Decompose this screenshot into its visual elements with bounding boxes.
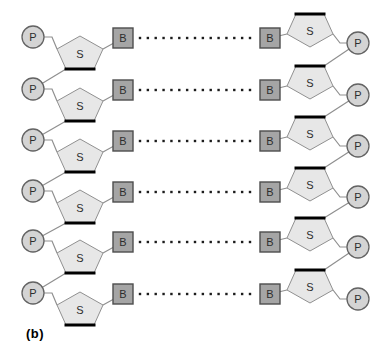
hydrogen-bond-dot	[147, 140, 149, 142]
hydrogen-bond-dot	[147, 241, 149, 243]
sugar-label: S	[306, 229, 313, 241]
hydrogen-bond-dot	[186, 241, 188, 243]
hydrogen-bond-dot	[225, 89, 227, 91]
hydrogen-bond-dot	[241, 140, 243, 142]
phosphate-label: P	[29, 185, 36, 197]
hydrogen-bond-dot	[210, 241, 212, 243]
hydrogen-bond-dot	[210, 191, 212, 193]
hydrogen-bond-dot	[186, 89, 188, 91]
hydrogen-bond-dot	[178, 89, 180, 91]
base-label: B	[119, 236, 126, 248]
hydrogen-bond-dot	[217, 89, 219, 91]
hydrogen-bond-dot	[225, 293, 227, 295]
phosphate-label: P	[354, 191, 361, 203]
hydrogen-bond-dot	[210, 89, 212, 91]
sugar-label: S	[76, 304, 83, 316]
phosphate-label: P	[354, 140, 361, 152]
sugar-label: S	[306, 128, 313, 140]
hydrogen-bond-dot	[139, 241, 141, 243]
hydrogen-bond-dot	[217, 191, 219, 193]
phosphate-label: P	[29, 235, 36, 247]
hydrogen-bond-dot	[139, 191, 141, 193]
hydrogen-bond-dot	[178, 140, 180, 142]
hydrogen-bond-dot	[178, 191, 180, 193]
hydrogen-bond-dot	[170, 191, 172, 193]
hydrogen-bond-dot	[147, 293, 149, 295]
base-label: B	[266, 32, 273, 44]
hydrogen-bond-dot	[139, 293, 141, 295]
hydrogen-bond-dot	[170, 241, 172, 243]
base-label: B	[119, 32, 126, 44]
dna-schematic: PSBBSPPSBBSPPSBBSPPSBBSPPSBBSPPSBBSP	[0, 0, 387, 358]
hydrogen-bond-dot	[186, 293, 188, 295]
hydrogen-bond-dot	[178, 293, 180, 295]
hydrogen-bond-dot	[178, 37, 180, 39]
hydrogen-bond-dot	[139, 89, 141, 91]
hydrogen-bond-dot	[233, 191, 235, 193]
base-label: B	[119, 288, 126, 300]
hydrogen-bond-dot	[178, 241, 180, 243]
hydrogen-bond-dot	[202, 293, 204, 295]
hydrogen-bond-dot	[241, 37, 243, 39]
hydrogen-bond-dot	[147, 37, 149, 39]
hydrogen-bond-dot	[217, 293, 219, 295]
hydrogen-bond-dot	[194, 241, 196, 243]
hydrogen-bond-dot	[217, 241, 219, 243]
hydrogen-bond-dot	[225, 140, 227, 142]
hydrogen-bond-dot	[170, 293, 172, 295]
hydrogen-bond-dot	[194, 37, 196, 39]
hydrogen-bond-dot	[210, 37, 212, 39]
hydrogen-bond-dot	[225, 37, 227, 39]
hydrogen-bond-dot	[249, 140, 251, 142]
hydrogen-bond-dot	[147, 191, 149, 193]
sugar-label: S	[76, 252, 83, 264]
phosphate-label: P	[29, 83, 36, 95]
hydrogen-bond-dot	[170, 37, 172, 39]
hydrogen-bond-dot	[202, 89, 204, 91]
hydrogen-bond-dot	[194, 293, 196, 295]
hydrogen-bond-dot	[155, 37, 157, 39]
figure-panel: PSBBSPPSBBSPPSBBSPPSBBSPPSBBSPPSBBSP (b)	[0, 0, 387, 358]
sugar-label: S	[306, 281, 313, 293]
hydrogen-bond-dot	[249, 293, 251, 295]
hydrogen-bond-dot	[202, 37, 204, 39]
hydrogen-bond-dot	[194, 89, 196, 91]
hydrogen-bond-dot	[233, 37, 235, 39]
sugar-label: S	[76, 151, 83, 163]
hydrogen-bond-dot	[139, 37, 141, 39]
sugar-label: S	[76, 100, 83, 112]
base-label: B	[266, 236, 273, 248]
hydrogen-bond-dot	[233, 140, 235, 142]
sugar-label: S	[306, 77, 313, 89]
hydrogen-bond-dot	[233, 89, 235, 91]
hydrogen-bond-dot	[210, 293, 212, 295]
hydrogen-bond-dot	[233, 293, 235, 295]
hydrogen-bond-dot	[162, 191, 164, 193]
phosphate-label: P	[354, 89, 361, 101]
sugar-label: S	[306, 179, 313, 191]
phosphate-label: P	[29, 134, 36, 146]
hydrogen-bond-dot	[155, 89, 157, 91]
hydrogen-bond-dot	[225, 241, 227, 243]
base-label: B	[119, 84, 126, 96]
hydrogen-bond-dot	[186, 191, 188, 193]
base-label: B	[119, 135, 126, 147]
hydrogen-bond-dot	[155, 293, 157, 295]
hydrogen-bond-dot	[202, 191, 204, 193]
hydrogen-bond-dot	[217, 37, 219, 39]
phosphate-label: P	[29, 287, 36, 299]
hydrogen-bond-dot	[155, 241, 157, 243]
hydrogen-bond-dot	[162, 89, 164, 91]
hydrogen-bond-dot	[170, 89, 172, 91]
base-label: B	[266, 186, 273, 198]
hydrogen-bond-dot	[241, 191, 243, 193]
hydrogen-bond-dot	[249, 89, 251, 91]
hydrogen-bond-dot	[155, 140, 157, 142]
hydrogen-bond-dot	[139, 140, 141, 142]
figure-label: (b)	[26, 326, 44, 341]
hydrogen-bond-dot	[155, 191, 157, 193]
hydrogen-bond-dot	[162, 293, 164, 295]
hydrogen-bond-dot	[162, 37, 164, 39]
base-label: B	[266, 84, 273, 96]
hydrogen-bond-dot	[210, 140, 212, 142]
